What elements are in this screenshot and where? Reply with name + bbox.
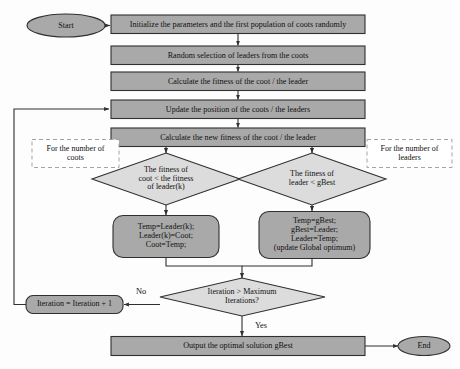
node-end[interactable] <box>398 336 450 355</box>
node-init[interactable] <box>111 15 365 34</box>
node-select-leaders[interactable] <box>111 46 365 65</box>
node-start[interactable] <box>27 14 105 37</box>
node-swap-coot[interactable] <box>113 215 219 257</box>
edge-swapcoot-merge <box>166 258 242 279</box>
node-output[interactable] <box>111 336 365 355</box>
node-decide-iteration[interactable] <box>160 278 325 316</box>
node-decide-leader[interactable] <box>238 153 386 205</box>
node-decide-coot[interactable] <box>92 153 240 205</box>
node-increment[interactable] <box>26 295 123 313</box>
edge-increment-feedback <box>14 109 109 305</box>
node-update-position[interactable] <box>111 100 365 119</box>
flowchart-canvas: Start Initialize the parameters and the … <box>0 0 460 369</box>
node-calc-new-fitness[interactable] <box>111 128 365 147</box>
node-swap-leader[interactable] <box>259 211 370 258</box>
node-calc-fitness[interactable] <box>111 72 365 91</box>
edge-swapleader-merge <box>242 259 312 267</box>
